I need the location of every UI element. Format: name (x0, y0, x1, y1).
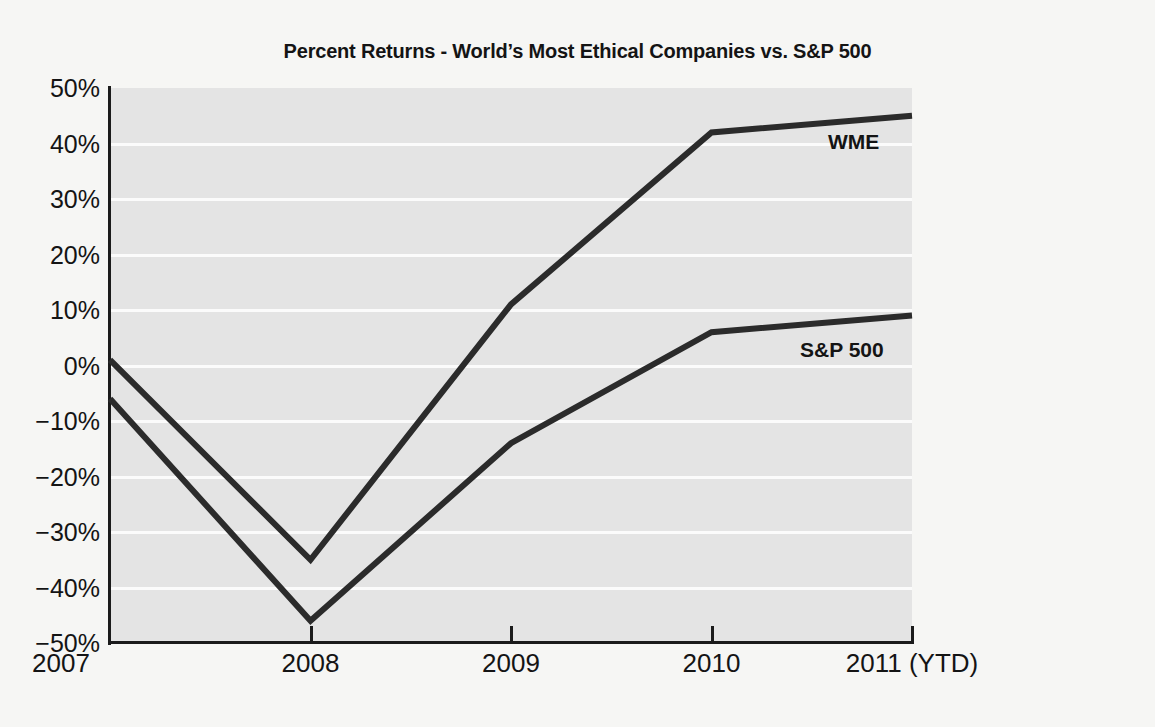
data-lines (0, 0, 1155, 727)
chart-figure: Percent Returns - World’s Most Ethical C… (0, 0, 1155, 727)
series-line-wme (110, 116, 912, 560)
series-label-sp-500: S&P 500 (800, 338, 884, 362)
series-line-sp-500 (110, 316, 912, 621)
series-label-wme: WME (828, 130, 879, 154)
